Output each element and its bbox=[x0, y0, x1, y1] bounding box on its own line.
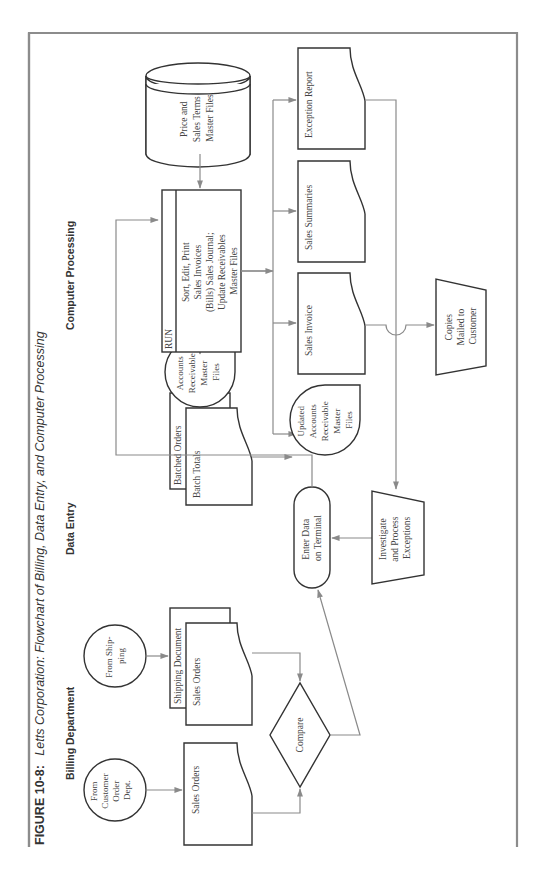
sales-orders-document: Sales Orders bbox=[184, 743, 252, 845]
price-sales-terms-disk: Price and Sales Terms Master Files bbox=[146, 63, 250, 167]
shipping-document-stack: Shipping Document Sales Orders bbox=[170, 608, 252, 725]
figure-label: FIGURE 10-8: bbox=[33, 765, 47, 845]
run-process-box: RUN Sort, Edit, Print Sales Invoices (Bi… bbox=[162, 190, 241, 352]
batched-orders-stack: Batched Orders Batch Totals bbox=[170, 393, 252, 505]
investigate-exceptions-manual-op: Investigate and Process Exceptions bbox=[372, 491, 424, 584]
sales-invoice-document: Sales Invoice bbox=[298, 273, 365, 374]
rotated-diagram: FIGURE 10-8: Letts Corporation: Flowchar… bbox=[29, 33, 517, 847]
svg-text:Investigate and Proces: Investigate and Process Exceptions bbox=[378, 514, 412, 562]
figure-caption: Letts Corporation: Flowchart of Billing,… bbox=[33, 331, 47, 755]
updated-ar-master-files-tape: Updated Accounts Receivable Master Files bbox=[290, 385, 360, 455]
column-header-computer: Computer Processing bbox=[64, 221, 76, 330]
svg-text:Sales Orders: Sales Orders bbox=[191, 765, 201, 814]
sales-summaries-document: Sales Summaries bbox=[298, 161, 365, 262]
svg-text:Sales Orders: Sales Orders bbox=[192, 657, 202, 706]
exception-report-document: Exception Report bbox=[298, 48, 365, 149]
enter-data-terminal: Enter Data on Terminal bbox=[294, 487, 330, 588]
compare-decision: Compare bbox=[270, 683, 330, 787]
svg-text:Exception Report: Exception Report bbox=[304, 71, 314, 138]
column-header-data-entry: Data Entry bbox=[64, 502, 76, 555]
from-shipping-connector: From Ship- ping bbox=[84, 625, 146, 687]
column-header-billing: Billing Department bbox=[64, 686, 76, 780]
svg-text:Batch Totals: Batch Totals bbox=[192, 450, 202, 498]
figure-title: FIGURE 10-8: Letts Corporation: Flowchar… bbox=[33, 331, 47, 845]
svg-text:Price and Sales Terms: Price and Sales Terms Master Files bbox=[179, 94, 215, 142]
from-customer-order-dept-connector: From Customer Order Dept. bbox=[84, 759, 146, 821]
svg-text:Copies Mailed to: Copies Mailed to Customer bbox=[444, 306, 478, 345]
svg-text:Compare: Compare bbox=[295, 718, 305, 753]
copies-mailed-manual-op: Copies Mailed to Customer bbox=[436, 279, 486, 375]
svg-text:Sales Invoice: Sales Invoice bbox=[304, 305, 314, 356]
svg-text:Sales Summaries: Sales Summaries bbox=[304, 185, 314, 250]
svg-text:RUN: RUN bbox=[164, 329, 174, 349]
flowchart-canvas: FIGURE 10-8: Letts Corporation: Flowchar… bbox=[0, 0, 544, 896]
svg-text:Shipping Document: Shipping Document bbox=[173, 627, 183, 704]
